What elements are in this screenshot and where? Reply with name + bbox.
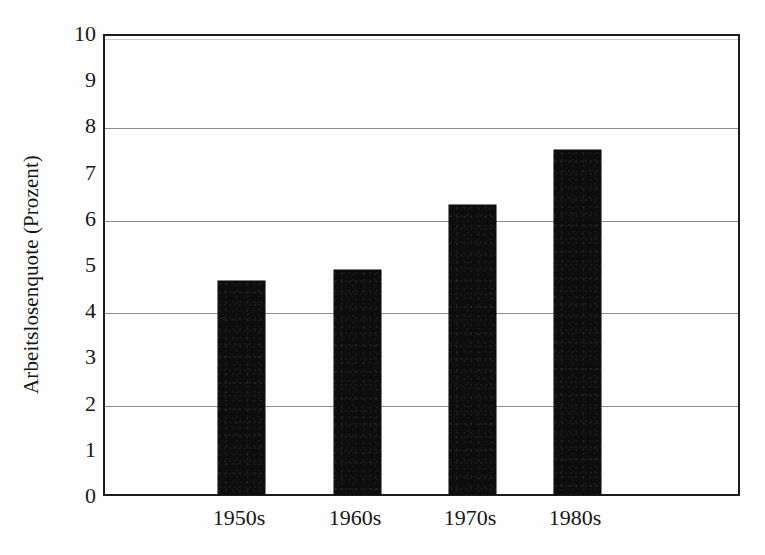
x-axis-tick-label: 1960s <box>295 503 415 533</box>
y-axis-tick-label: 9 <box>58 69 96 91</box>
x-axis-tick-label: 1970s <box>410 503 530 533</box>
bar-chart-figure: Arbeitslosenquote (Prozent) 109876543210… <box>0 0 765 555</box>
y-axis-tick-label-group: 109876543210 <box>58 34 96 496</box>
bar <box>554 150 601 494</box>
bar-group <box>105 36 738 494</box>
y-axis-tick-label: 1 <box>58 439 96 461</box>
y-axis-tick-label: 4 <box>58 300 96 322</box>
y-axis-tick-label: 7 <box>58 162 96 184</box>
plot-area <box>103 34 740 496</box>
y-axis-tick-label: 2 <box>58 393 96 415</box>
y-axis-tick-label: 0 <box>58 485 96 507</box>
y-axis-title: Arbeitslosenquote (Prozent) <box>19 110 44 440</box>
y-axis-tick-label: 10 <box>58 23 96 45</box>
y-axis-tick-label: 5 <box>58 254 96 276</box>
bar <box>449 205 496 494</box>
x-axis-tick-label: 1980s <box>515 503 635 533</box>
bar <box>334 270 381 494</box>
x-axis-tick-label: 1950s <box>179 503 299 533</box>
bar <box>218 281 265 494</box>
y-axis-tick-label: 6 <box>58 208 96 230</box>
y-axis-tick-label: 3 <box>58 346 96 368</box>
x-axis-tick-label-group: 1950s1960s1970s1980s <box>103 503 740 543</box>
y-axis-tick-label: 8 <box>58 115 96 137</box>
